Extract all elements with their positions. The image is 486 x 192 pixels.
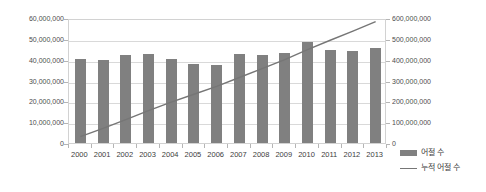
left-tick-label: 50,000,000 [0,36,64,44]
left-tick-label: 10,000,000 [0,119,64,127]
bar-swatch-icon [400,150,417,156]
plot-area [68,19,386,144]
chart-legend: 어절 수 누적 어절 수 [400,148,460,178]
legend-label-bar: 어절 수 [421,148,444,158]
right-tick-label: 400,000,000 [392,57,478,65]
legend-item-bar: 어절 수 [400,148,460,158]
line-series [69,20,387,145]
right-tick-label: 300,000,000 [392,78,478,86]
left-tick-label: 30,000,000 [0,78,64,86]
left-tick-label: 40,000,000 [0,57,64,65]
cumulative-line [80,22,375,137]
right-tick-label: 0 [392,140,478,148]
right-tick-label: 600,000,000 [392,15,478,23]
legend-item-line: 누적 어절 수 [400,163,460,173]
chart-container: 010,000,00020,000,00030,000,00040,000,00… [0,0,486,192]
x-axis-label: 2013 [360,150,390,159]
left-tick-label: 20,000,000 [0,98,64,106]
line-swatch-icon [400,168,417,169]
legend-label-line: 누적 어절 수 [421,163,460,173]
right-tick-label: 100,000,000 [392,119,478,127]
right-tick-label: 500,000,000 [392,36,478,44]
right-tick-label: 200,000,000 [392,98,478,106]
left-tick-label: 60,000,000 [0,15,64,23]
left-tick-label: 0 [0,140,64,148]
